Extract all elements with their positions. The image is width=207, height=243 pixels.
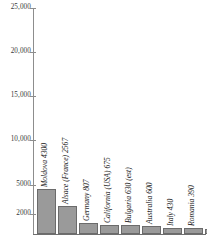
plot-area: Moldova 4300Alsace (France) 2567Germany …	[34, 8, 206, 234]
bar-label: Germany 807	[82, 179, 91, 221]
bar[interactable]	[79, 223, 98, 234]
bar-label: California (USA) 675	[103, 157, 112, 223]
bar-label: Italy 430	[166, 199, 175, 226]
bar-group[interactable]: Austria 363	[205, 8, 207, 234]
bar[interactable]	[100, 225, 119, 234]
bar-group[interactable]: Alsace (France) 2567	[58, 8, 77, 234]
y-axis-tick-label: 20,000	[11, 47, 31, 55]
x-axis-baseline	[33, 234, 206, 235]
y-axis-tick-label: 15,000	[11, 91, 31, 99]
bar[interactable]	[142, 226, 161, 234]
bar-group[interactable]: Australia 600	[142, 8, 161, 234]
y-axis-tick-label: 10,000	[11, 135, 31, 143]
bar-group[interactable]: Germany 807	[79, 8, 98, 234]
bar-label: Moldova 4300	[40, 143, 49, 187]
bar[interactable]	[58, 206, 77, 234]
bar[interactable]	[184, 228, 203, 234]
bar-group[interactable]: Bulgaria 630 (est)	[121, 8, 140, 234]
bar[interactable]	[163, 228, 182, 234]
y-axis-tick-label: 5000	[16, 180, 31, 188]
y-axis-tick-label: 2000	[16, 209, 31, 217]
bar-chart: 25,00020,00015,00010,00050002000 Moldova…	[0, 0, 207, 243]
bar-group[interactable]: California (USA) 675	[100, 8, 119, 234]
bar-group[interactable]: Romania 390	[184, 8, 203, 234]
y-axis-tick-label: 25,000	[11, 3, 31, 11]
bar[interactable]	[205, 229, 207, 234]
bar[interactable]	[121, 225, 140, 234]
bar-label: Australia 600	[145, 182, 154, 224]
bar-group[interactable]: Moldova 4300	[37, 8, 56, 234]
bar-label: Bulgaria 630 (est)	[124, 167, 133, 223]
bar-label: Alsace (France) 2567	[61, 138, 70, 204]
bar[interactable]	[37, 189, 56, 234]
bar-group[interactable]: Italy 430	[163, 8, 182, 234]
bar-label: Romania 390	[187, 185, 196, 226]
